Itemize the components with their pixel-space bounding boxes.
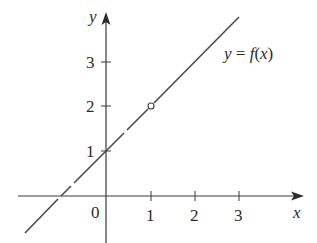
x-axis-label: x xyxy=(292,203,301,222)
function-line xyxy=(25,17,239,233)
y-tick-label-2: 2 xyxy=(86,97,95,116)
function-label: y = f(x) xyxy=(222,44,273,63)
y-tick-label-3: 3 xyxy=(86,53,95,72)
y-axis-label: y xyxy=(87,7,97,26)
origin-label: 0 xyxy=(91,203,100,222)
open-point-marker xyxy=(148,103,154,109)
x-tick-label-2: 2 xyxy=(190,206,199,225)
function-graph: y x 0 1 2 3 1 2 3 y = f(x) xyxy=(0,0,317,243)
y-tick-label-1: 1 xyxy=(86,142,95,161)
x-tick-label-1: 1 xyxy=(146,206,155,225)
x-tick-label-3: 3 xyxy=(234,206,243,225)
